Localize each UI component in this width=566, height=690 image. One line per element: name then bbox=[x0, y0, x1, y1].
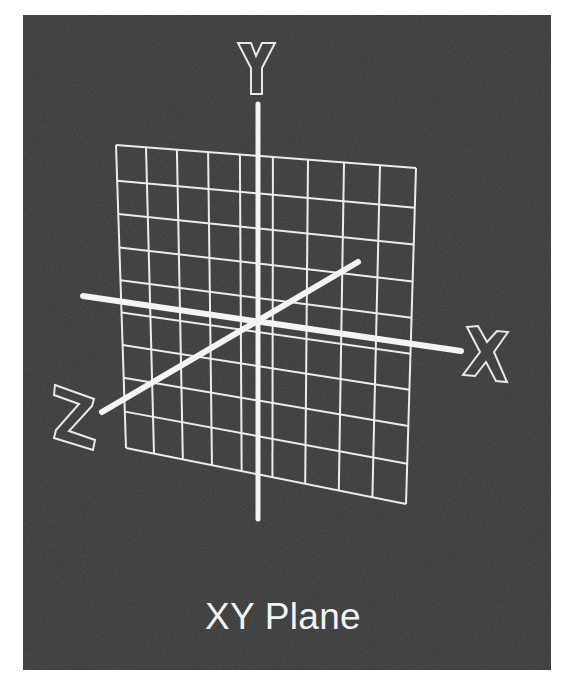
grid-horizontal-line bbox=[119, 247, 412, 281]
y-axis-label bbox=[238, 43, 275, 94]
diagram-caption: XY Plane bbox=[0, 598, 566, 635]
z-axis bbox=[102, 262, 358, 412]
grid-vertical-line bbox=[208, 152, 212, 465]
z-axis-label bbox=[54, 385, 95, 450]
grid-vertical-line bbox=[240, 154, 242, 471]
grid-vertical-line bbox=[146, 147, 154, 453]
grid-horizontal-line bbox=[123, 345, 410, 390]
x-axis-label bbox=[463, 326, 508, 382]
grid-vertical-line bbox=[372, 165, 380, 497]
grid-vertical-line bbox=[177, 150, 183, 460]
grid-vertical-line bbox=[305, 160, 308, 484]
grid-horizontal-line bbox=[118, 214, 413, 245]
grid-horizontal-line bbox=[120, 280, 411, 318]
grid-vertical-line bbox=[406, 168, 416, 504]
axis-labels bbox=[54, 43, 508, 450]
xy-plane-diagram bbox=[0, 0, 566, 690]
grid-horizontal-line bbox=[117, 181, 415, 208]
grid-vertical-line bbox=[339, 162, 344, 490]
grid-horizontal-line bbox=[116, 145, 416, 168]
